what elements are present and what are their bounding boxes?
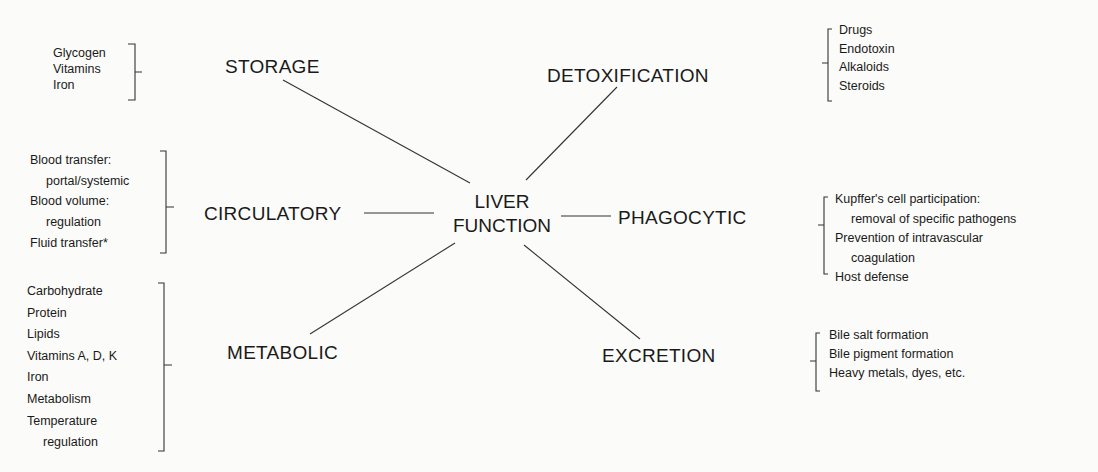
list-storage: Glycogen Vitamins Iron xyxy=(53,45,106,94)
bracket-storage xyxy=(128,44,142,100)
list-item: portal/systemic xyxy=(30,171,129,192)
list-item: removal of specific pathogens xyxy=(835,210,1016,230)
bracket-excretion xyxy=(810,333,820,391)
list-item: Temperature xyxy=(27,411,117,433)
list-item: regulation xyxy=(27,432,117,454)
list-item: Carbohydrate xyxy=(27,281,117,303)
list-item: Heavy metals, dyes, etc. xyxy=(829,364,965,383)
list-detoxification: Drugs Endotoxin Alkaloids Steroids xyxy=(839,21,895,95)
bracket-metabolic xyxy=(158,283,172,451)
list-item: Vitamins xyxy=(53,61,106,77)
center-title-line2: FUNCTION xyxy=(444,214,560,238)
list-excretion: Bile salt formation Bile pigment formati… xyxy=(829,326,965,383)
center-title-line1: LIVER xyxy=(444,190,560,214)
list-item: Bile salt formation xyxy=(829,326,965,345)
list-item: Steroids xyxy=(839,77,895,96)
list-item: Fluid transfer* xyxy=(30,233,129,254)
node-excretion: EXCRETION xyxy=(602,345,716,367)
list-item: Vitamins A, D, K xyxy=(27,346,117,368)
list-item: Bile pigment formation xyxy=(829,345,965,364)
list-item: Protein xyxy=(27,303,117,325)
list-item: Endotoxin xyxy=(839,40,895,59)
list-item: Blood volume: xyxy=(30,191,129,212)
spoke-storage xyxy=(283,80,470,183)
spoke-detoxification xyxy=(526,87,617,180)
node-detoxification: DETOXIFICATION xyxy=(547,65,709,87)
bracket-phagocytic xyxy=(818,197,828,274)
list-phagocytic: Kupffer's cell participation: removal of… xyxy=(835,190,1016,288)
list-item: Drugs xyxy=(839,21,895,40)
list-item: Blood transfer: xyxy=(30,150,129,171)
list-item: regulation xyxy=(30,212,129,233)
list-item: Alkaloids xyxy=(839,58,895,77)
list-item: coagulation xyxy=(835,249,1016,269)
spoke-metabolic xyxy=(310,243,455,334)
list-metabolic: Carbohydrate Protein Lipids Vitamins A, … xyxy=(27,281,117,454)
list-item: Host defense xyxy=(835,268,1016,288)
list-item: Iron xyxy=(53,77,106,93)
node-storage: STORAGE xyxy=(225,56,320,78)
node-metabolic: METABOLIC xyxy=(227,342,338,364)
node-circulatory: CIRCULATORY xyxy=(204,203,341,225)
center-title: LIVER FUNCTION xyxy=(444,190,560,238)
list-circulatory: Blood transfer: portal/systemic Blood vo… xyxy=(30,150,129,254)
list-item: Metabolism xyxy=(27,389,117,411)
list-item: Prevention of intravascular xyxy=(835,229,1016,249)
bracket-detoxification xyxy=(822,29,832,101)
spoke-excretion xyxy=(524,245,640,339)
list-item: Iron xyxy=(27,367,117,389)
bracket-circulatory xyxy=(160,151,174,253)
list-item: Glycogen xyxy=(53,45,106,61)
list-item: Kupffer's cell participation: xyxy=(835,190,1016,210)
list-item: Lipids xyxy=(27,324,117,346)
node-phagocytic: PHAGOCYTIC xyxy=(618,207,747,229)
